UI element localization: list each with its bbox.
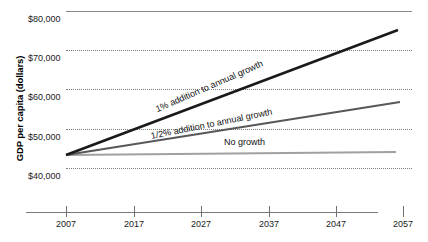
x-tick-label-2017: 2017 [124, 219, 144, 229]
annotation-no-growth: No growth [224, 137, 265, 147]
plot-area [66, 0, 412, 212]
gdp-growth-line-chart: GDP per capita (dollars) $80,000 $70,000… [0, 0, 428, 242]
x-tick-mark-2027 [201, 206, 202, 217]
y-axis-title: GDP per capita (dollars) [14, 29, 25, 189]
gridline-70000 [66, 50, 412, 51]
x-tick-label-2027: 2027 [191, 219, 211, 229]
y-tick-label-60000: $60,000 [28, 92, 61, 102]
x-tick-mark-2017 [134, 206, 135, 217]
x-tick-label-2037: 2037 [259, 219, 279, 229]
x-tick-mark-2037 [269, 206, 270, 217]
y-tick-label-70000: $70,000 [28, 53, 61, 63]
gridline-40000 [66, 168, 412, 169]
x-tick-mark-2007 [66, 206, 67, 217]
y-tick-label-40000: $40,000 [28, 171, 61, 181]
x-tick-mark-2057 [403, 206, 404, 217]
gridline-80000 [66, 11, 412, 12]
gridline-60000 [66, 89, 412, 90]
x-tick-label-2047: 2047 [326, 219, 346, 229]
x-tick-label-2007: 2007 [56, 219, 76, 229]
y-tick-label-50000: $50,000 [28, 132, 61, 142]
y-tick-label-80000: $80,000 [28, 14, 61, 24]
x-tick-mark-2047 [336, 206, 337, 217]
x-axis-line [26, 212, 378, 213]
gridline-50000 [66, 129, 412, 130]
x-tick-label-2057: 2057 [393, 219, 413, 229]
